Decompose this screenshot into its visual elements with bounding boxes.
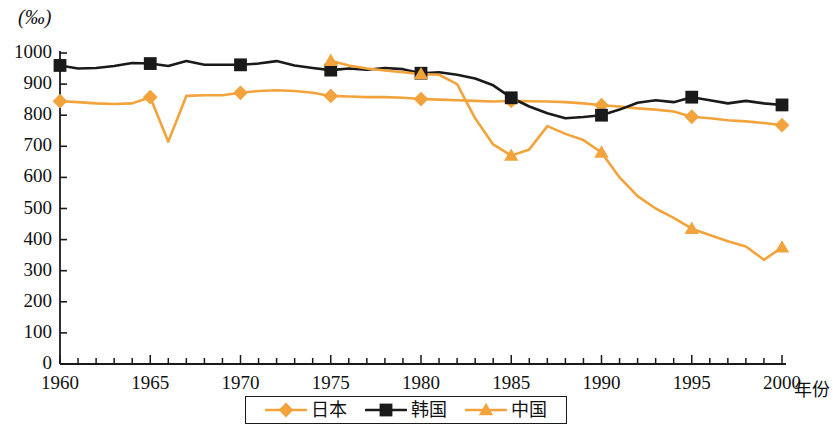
legend-item-japan[interactable]: 日本 [265,401,347,419]
series-marker-korea-1990 [595,109,608,122]
series-marker-korea-1970 [234,58,247,71]
y-tick-label-0: 0 [0,352,52,374]
x-tick-label-1980: 1980 [386,372,456,394]
y-tick-label-500: 500 [0,197,52,219]
series-marker-korea-1985 [505,91,518,104]
x-tick-label-1960: 1960 [25,372,95,394]
legend-item-china[interactable]: 中国 [465,401,547,419]
series-marker-korea-1995 [685,91,698,104]
x-axis-caption: 年份 [794,375,830,401]
y-tick-label-1000: 1000 [0,41,52,63]
x-tick-label-1995: 1995 [657,372,727,394]
chart-legend: 日本韩国中国 [245,396,567,424]
data-series-markers [53,54,790,253]
series-marker-korea-1965 [144,57,157,70]
legend-marker-diamond [279,403,294,418]
series-marker-japan-1965 [143,90,158,105]
series-line-china [331,61,782,260]
y-tick-label-600: 600 [0,165,52,187]
series-marker-japan-1995 [684,109,699,124]
y-tick-label-700: 700 [0,134,52,156]
series-marker-china-2000 [775,240,789,252]
y-tick-label-800: 800 [0,103,52,125]
legend-marker-square [380,404,393,417]
legend-label: 中国 [511,401,547,419]
series-marker-japan-1970 [233,85,248,100]
y-tick-label-400: 400 [0,228,52,250]
series-marker-japan-1975 [323,89,338,104]
y-tick-label-100: 100 [0,321,52,343]
series-marker-japan-2000 [775,118,790,133]
series-marker-japan-1980 [414,92,429,107]
series-marker-china-1995 [685,222,699,234]
series-marker-korea-2000 [776,99,789,112]
x-tick-label-1970: 1970 [206,372,276,394]
legend-label: 韩国 [411,401,447,419]
y-tick-label-900: 900 [0,72,52,94]
series-marker-korea-1960 [54,59,67,72]
series-marker-japan-1960 [53,94,68,109]
chart-plot-area [0,0,833,427]
legend-symbol-diamond-icon [265,401,307,419]
x-tick-label-1985: 1985 [476,372,546,394]
x-tick-label-1990: 1990 [567,372,637,394]
legend-label: 日本 [311,401,347,419]
x-tick-label-1975: 1975 [296,372,366,394]
x-tick-label-1965: 1965 [115,372,185,394]
legend-item-korea[interactable]: 韩国 [365,401,447,419]
y-tick-label-200: 200 [0,290,52,312]
y-tick-label-300: 300 [0,259,52,281]
legend-symbol-square-icon [365,401,407,419]
series-marker-china-1975 [324,54,338,66]
chart-container: (‰) 01002003004005006007008009001000 196… [0,0,833,427]
data-series-lines [60,61,782,260]
series-marker-china-1990 [594,145,608,157]
legend-symbol-triangle-icon [465,401,507,419]
